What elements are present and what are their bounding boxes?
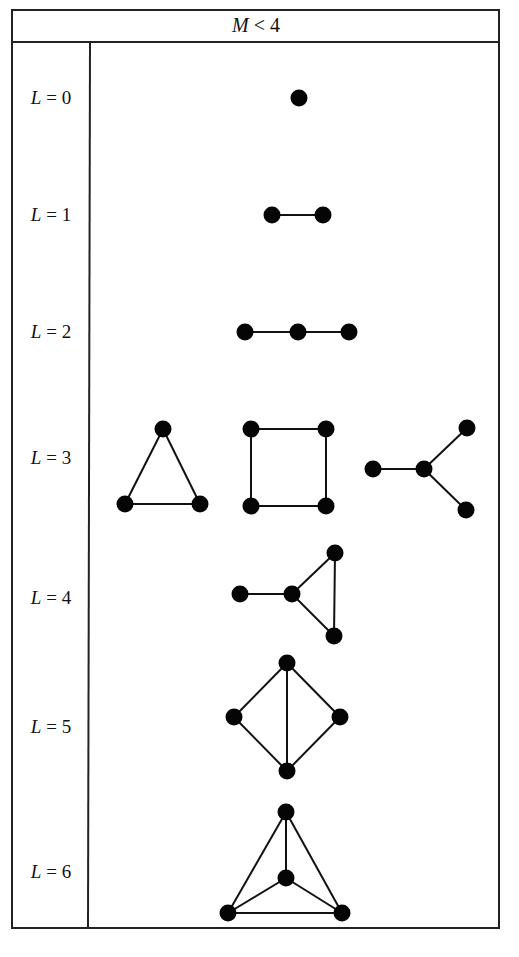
row-l-5: L = 5 (30, 655, 349, 780)
graph-table: M < 4 L = 0L = 1L = 2L = 3L = 4L = 5L = … (0, 0, 519, 957)
graph-node (155, 421, 172, 438)
rows-layer: L = 0L = 1L = 2L = 3L = 4L = 5L = 6 (30, 87, 476, 922)
graph-node (226, 709, 243, 726)
graph-node (365, 461, 382, 478)
row-l-3: L = 3 (30, 420, 476, 519)
graph-node (237, 324, 254, 341)
graph-edge (286, 878, 342, 913)
graph-edge (287, 663, 340, 717)
graph-node (192, 496, 209, 513)
row-l-6: L = 6 (30, 804, 351, 922)
graph-node (318, 421, 335, 438)
header-title: M < 4 (231, 14, 280, 36)
graph (117, 421, 209, 513)
graph-node (334, 905, 351, 922)
graph-edge (334, 553, 335, 636)
graph-node (278, 870, 295, 887)
row-label: L = 0 (30, 87, 71, 108)
row-l-4: L = 4 (30, 545, 344, 645)
row-label: L = 2 (30, 321, 71, 342)
graph-edge (125, 429, 163, 504)
graph-edge (287, 717, 340, 771)
row-l-0: L = 0 (30, 87, 308, 108)
row-label: L = 1 (30, 204, 71, 225)
graph (291, 90, 308, 107)
graph-node (341, 324, 358, 341)
graph-edge (286, 812, 342, 913)
graph (365, 420, 476, 519)
graph-node (243, 421, 260, 438)
graph-node (278, 804, 295, 821)
graph-node (315, 207, 332, 224)
graph-edge (228, 878, 286, 913)
graph (232, 545, 344, 645)
graph-edge (228, 812, 286, 913)
graph-edge (424, 469, 466, 510)
graph-node (416, 461, 433, 478)
graph-edge (424, 428, 467, 469)
row-label: L = 3 (30, 447, 71, 468)
graph (226, 655, 349, 780)
graph-node (459, 420, 476, 437)
graph (264, 207, 332, 224)
row-label: L = 6 (30, 861, 71, 882)
graph-node (220, 905, 237, 922)
graph-node (458, 502, 475, 519)
row-label: L = 5 (30, 716, 71, 737)
graph-edge (292, 553, 335, 594)
graph (220, 804, 351, 922)
graph (237, 324, 358, 341)
graph-edge (292, 594, 334, 636)
column-divider (88, 42, 90, 928)
row-label: L = 4 (30, 587, 72, 608)
row-l-2: L = 2 (30, 321, 358, 342)
graph-node (291, 90, 308, 107)
graph-node (318, 498, 335, 515)
row-l-1: L = 1 (30, 204, 332, 225)
graph-node (264, 207, 281, 224)
graph-node (243, 498, 260, 515)
graph-node (279, 763, 296, 780)
graph-node (332, 709, 349, 726)
graph-node (290, 324, 307, 341)
graph-edge (234, 663, 287, 717)
graph-edge (163, 429, 200, 504)
graph-node (117, 496, 134, 513)
graph-node (279, 655, 296, 672)
graph-node (232, 586, 249, 603)
graph-node (284, 586, 301, 603)
graph-node (327, 545, 344, 562)
graph (243, 421, 335, 515)
graph-node (326, 628, 343, 645)
graph-edge (234, 717, 287, 771)
